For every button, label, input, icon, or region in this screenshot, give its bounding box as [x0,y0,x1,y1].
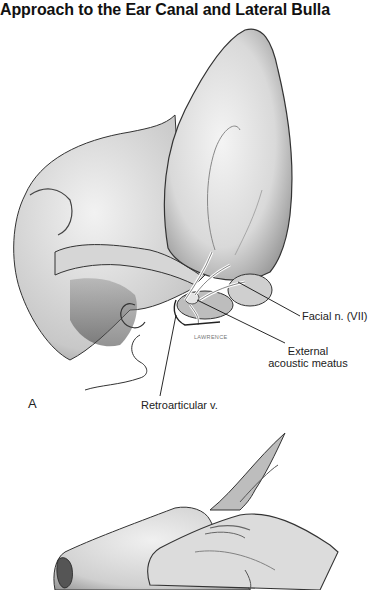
panel-label-a: A [28,396,37,411]
label-retroarticular-vein: Retroarticular v. [141,399,218,411]
label-facial-nerve: Facial n. (VII) [302,310,367,322]
figure-b-illustration [0,430,372,590]
label-external-acoustic-meatus-2: acoustic meatus [260,357,356,369]
artist-signature: LAWRENCE [194,334,227,340]
label-external-acoustic-meatus-1: External [260,345,356,357]
ear-flap [210,433,285,510]
leader-retroarticular-vein [160,315,176,396]
ear-pinna [164,29,292,280]
